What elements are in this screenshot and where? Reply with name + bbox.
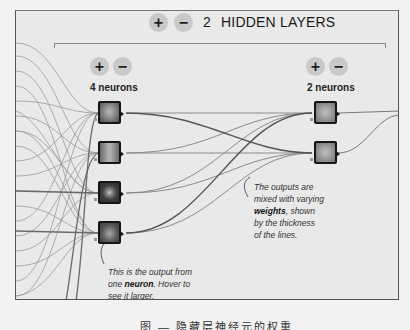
layer1-neuron-count: 4 neurons bbox=[90, 82, 138, 93]
figure-caption: 图 — 隐藏层神经元的权重 bbox=[140, 318, 293, 330]
layer2-neuron-1[interactable] bbox=[314, 101, 337, 124]
layer1-neuron-4[interactable] bbox=[98, 221, 121, 244]
layer1-add-neuron-button[interactable]: + bbox=[90, 57, 109, 76]
output-port bbox=[120, 111, 124, 117]
layer2-neuron-2[interactable] bbox=[314, 141, 337, 164]
bias-marker bbox=[310, 118, 313, 121]
layer2-neuron-count: 2 neurons bbox=[307, 82, 355, 93]
bias-marker bbox=[94, 238, 97, 241]
layer1-neuron-1[interactable] bbox=[98, 101, 121, 124]
output-port bbox=[120, 151, 124, 157]
layers-bracket bbox=[54, 43, 386, 48]
layer2-remove-neuron-button[interactable]: − bbox=[329, 57, 348, 76]
layer1-neuron-3[interactable] bbox=[98, 181, 121, 204]
output-port bbox=[336, 151, 340, 157]
bias-marker bbox=[94, 198, 97, 201]
note-bold: weights bbox=[254, 206, 286, 216]
output-port bbox=[336, 111, 340, 117]
note-bold: neuron bbox=[125, 279, 154, 289]
hidden-layers-title: 2HIDDEN LAYERS bbox=[203, 14, 335, 30]
weights-note: The outputs are mixed with varying weigh… bbox=[254, 181, 324, 241]
add-layer-button[interactable]: + bbox=[149, 13, 168, 32]
network-diagram-frame: + − 2HIDDEN LAYERS + − 4 neurons + − 2 n… bbox=[15, 10, 399, 300]
output-port bbox=[120, 191, 124, 197]
layer-count: 2 bbox=[203, 14, 211, 30]
neuron-output-note: This is the output from one neuron. Hove… bbox=[108, 266, 198, 300]
output-port bbox=[120, 231, 124, 237]
bias-marker bbox=[310, 158, 313, 161]
layer1-remove-neuron-button[interactable]: − bbox=[113, 57, 132, 76]
layer2-add-neuron-button[interactable]: + bbox=[306, 57, 325, 76]
layer1-neuron-2[interactable] bbox=[98, 141, 121, 164]
title-label: HIDDEN LAYERS bbox=[221, 14, 335, 30]
bias-marker bbox=[94, 118, 97, 121]
connection-lines bbox=[16, 11, 399, 300]
remove-layer-button[interactable]: − bbox=[174, 13, 193, 32]
bias-marker bbox=[94, 158, 97, 161]
note-text: The outputs are mixed with varying bbox=[254, 182, 324, 204]
